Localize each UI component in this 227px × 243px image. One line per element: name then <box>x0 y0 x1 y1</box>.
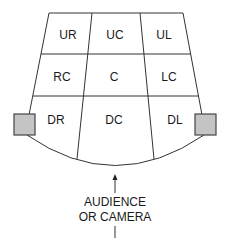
apron-curve <box>27 135 204 166</box>
region-label-ur: UR <box>59 28 77 42</box>
arrow-up-icon <box>113 174 118 180</box>
stage-right-edge <box>183 13 202 115</box>
region-label-uc: UC <box>106 28 124 42</box>
column-divider-left <box>77 13 92 159</box>
right-side-box <box>195 114 216 135</box>
region-label-rc: RC <box>53 70 71 84</box>
left-side-box <box>14 114 35 135</box>
stage-diagram: UR UC UL RC C LC DR DC DL AUDIENCE OR CA… <box>0 0 227 243</box>
region-label-dl: DL <box>167 113 183 127</box>
region-label-dc: DC <box>105 113 123 127</box>
caption-line-2: OR CAMERA <box>79 210 152 224</box>
stage-left-edge <box>29 13 49 115</box>
region-label-c: C <box>110 70 119 84</box>
region-label-lc: LC <box>161 70 177 84</box>
region-label-ul: UL <box>156 28 172 42</box>
region-label-dr: DR <box>47 113 65 127</box>
column-divider-right <box>140 13 154 159</box>
caption-line-1: AUDIENCE <box>84 195 146 209</box>
